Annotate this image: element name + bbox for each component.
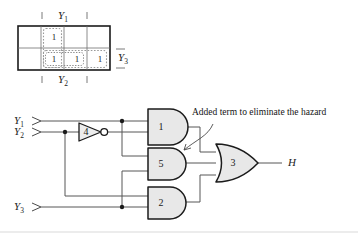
and-gate-2-label: 2 <box>156 198 166 208</box>
and-gate-2-body <box>148 187 186 219</box>
inverter-bubble-icon <box>101 129 108 136</box>
logic-hazard-figure: Y1 Y2 Y3 1 1 1 1 Y1 Y2 Y3 4 1 5 2 3 H Ad… <box>0 0 358 237</box>
input-label-y3: Y3 <box>14 201 24 212</box>
hazard-annotation-text: Added term to eliminate the hazard <box>192 108 326 118</box>
kmap-graphics <box>18 12 125 83</box>
and-gate-5-label: 5 <box>156 159 166 169</box>
and-gate-1-label: 1 <box>156 122 166 132</box>
and-gate-5-shape <box>148 148 186 180</box>
and-gate-2-shape <box>148 187 186 219</box>
kmap-cell-r1c1: 1 <box>47 55 61 64</box>
kmap-right-label: Y3 <box>118 52 128 63</box>
and-gate-1-shape <box>148 109 188 145</box>
kmap-cell-r1c3: 1 <box>93 55 107 64</box>
junction-y2 <box>63 130 67 134</box>
kmap-top-label: Y1 <box>58 10 68 21</box>
input-arrow-y2 <box>32 128 41 136</box>
and-gate-1-body <box>148 109 188 145</box>
junction-y3 <box>120 205 124 209</box>
output-label-h: H <box>288 157 296 168</box>
kmap-cell-r0c1: 1 <box>47 33 61 42</box>
input-label-y2: Y2 <box>14 126 24 137</box>
kmap-bottom-label: Y2 <box>58 74 68 85</box>
kmap-cell-r1c2: 1 <box>70 55 84 64</box>
input-arrow-y3 <box>32 203 41 211</box>
junction-y1 <box>120 119 124 123</box>
or-gate-3-label: 3 <box>228 158 238 168</box>
and-gate-5-body <box>148 148 186 180</box>
input-arrow-y1 <box>32 117 41 125</box>
inverter-4-label: 4 <box>81 127 91 137</box>
